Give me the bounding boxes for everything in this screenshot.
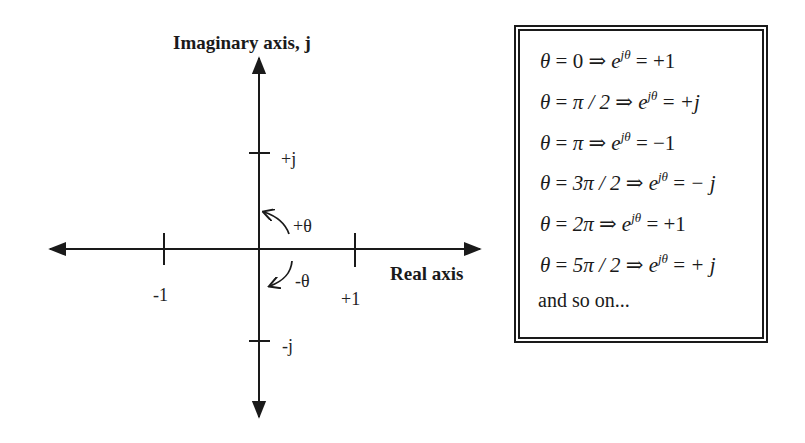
positive-rotation-label: +θ <box>293 217 312 235</box>
real-axis-label: Real axis <box>390 264 463 283</box>
equation-row: θ = 5π / 2 ⇒ ejθ = + j <box>540 252 716 276</box>
positive-rotation-arrow-icon <box>264 212 289 234</box>
equation-row: θ = 3π / 2 ⇒ ejθ = − j <box>540 170 716 194</box>
and-so-on-text: and so on... <box>538 290 630 310</box>
equation-row: θ = π ⇒ ejθ = −1 <box>540 130 675 154</box>
negative-rotation-label: -θ <box>295 272 310 290</box>
tick-label-pos-real: +1 <box>341 290 360 308</box>
equation-row: θ = π / 2 ⇒ ejθ = +j <box>540 89 700 113</box>
tick-label-neg-imag: -j <box>282 337 293 355</box>
imaginary-axis-label: Imaginary axis, j <box>173 33 311 52</box>
equation-row: θ = 0 ⇒ ejθ = +1 <box>540 48 675 72</box>
negative-rotation-arrow-icon <box>270 261 292 286</box>
tick-label-neg-real: -1 <box>153 286 168 304</box>
tick-label-pos-imag: +j <box>281 150 296 168</box>
equation-row: θ = 2π ⇒ ejθ = +1 <box>540 211 686 235</box>
